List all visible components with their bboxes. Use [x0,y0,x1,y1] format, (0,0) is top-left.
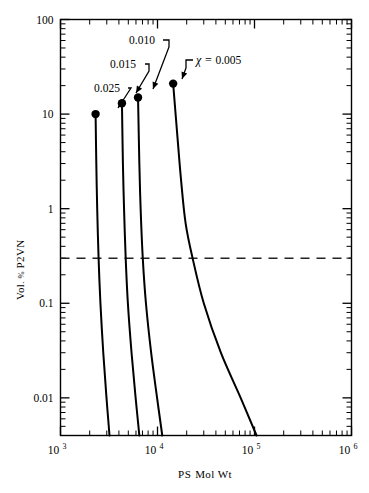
y-tick-label: 100 [36,14,54,26]
x-axis-title: PSMol Wt [178,468,232,480]
svg-text:5: 5 [257,442,261,451]
annotation-value: 0.010 [129,34,155,46]
x-axis-title-rest: Mol Wt [195,468,232,480]
svg-text:10: 10 [242,444,254,456]
y-tick-label: 1 [48,203,54,215]
figure-container: 103104105106 1001010.10.01 χ = 0.0050.01… [0,0,369,493]
chi-symbol: χ = [195,53,215,67]
x-axis-title-lead: PS [178,468,191,480]
y-axis-title-text: Vol. % P2VN [14,239,26,300]
log-log-phase-diagram: 103104105106 1001010.10.01 χ = 0.0050.01… [0,0,369,493]
curve-endpoint-marker [169,79,177,87]
svg-text:4: 4 [160,442,164,451]
y-axis-title-mid: . % [16,268,26,283]
y-tick-label: 10 [42,108,54,120]
annotation-label-chi-0010: 0.010 [129,34,155,46]
annotation-label-chi-0015: 0.015 [110,58,136,70]
annotation-label-chi-0025: 0.025 [94,82,120,94]
annotation-value: 0.015 [110,58,136,70]
svg-text:10: 10 [339,444,351,456]
annotation-label-chi-0005: χ = 0.005 [195,53,242,67]
y-tick-label: 0.01 [33,392,53,404]
y-axis-title-lead: Vol [14,284,26,300]
svg-text:10: 10 [145,444,157,456]
annotation-value: 0.025 [94,82,120,94]
curve-endpoint-marker [134,93,142,101]
y-axis-title: Vol. % P2VN [14,239,26,300]
svg-text:10: 10 [48,444,60,456]
y-tick-label: 0.1 [39,297,54,309]
svg-text:3: 3 [63,442,67,451]
annotation-value: 0.005 [215,54,241,66]
curve-endpoint-marker [91,110,99,118]
y-axis-title-rest: P2VN [14,239,26,268]
svg-text:6: 6 [354,442,358,451]
x-axis-title-text: PSMol Wt [178,468,232,480]
